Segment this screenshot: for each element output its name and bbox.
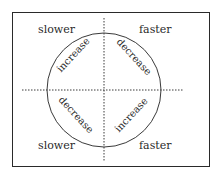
label-top-left-slower: slower xyxy=(38,24,75,35)
label-bottom-left-slower: slower xyxy=(38,140,75,151)
diagram-canvas xyxy=(0,0,222,177)
label-top-right-faster: faster xyxy=(139,24,171,35)
label-bottom-right-faster: faster xyxy=(139,140,171,151)
